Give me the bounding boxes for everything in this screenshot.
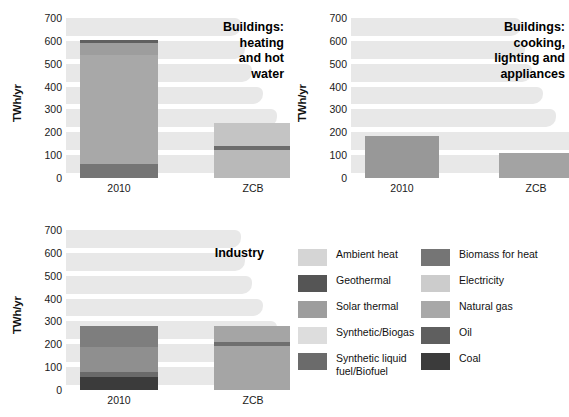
panel-title: Buildings: heating and hot water [164, 20, 284, 82]
panel-buildings-heating: TWh/yr 7006005004003002001000 Buildings:… [0, 0, 290, 205]
panel-title: Buildings: cooking, lighting and applian… [430, 20, 565, 82]
bar-segment [214, 342, 290, 347]
legend-swatch [298, 327, 327, 344]
y-tick-label: 700 [329, 13, 347, 24]
y-tick-label: 200 [44, 127, 62, 138]
bar-segment [80, 55, 158, 165]
x-tick-label: 2010 [80, 394, 158, 406]
y-tick-label: 300 [44, 104, 62, 115]
y-tick-label: 100 [329, 150, 347, 161]
y-tick-label: 200 [44, 339, 62, 350]
y-tick-label: 300 [44, 316, 62, 327]
legend-item[interactable]: Coal [421, 352, 569, 370]
x-axis-ticks: 2010ZCB [351, 182, 569, 198]
x-tick-label: 2010 [365, 182, 439, 194]
legend-item[interactable]: Electricity [421, 274, 569, 292]
y-tick-label: 700 [44, 13, 62, 24]
y-axis-label: TWh/yr [296, 70, 308, 122]
bar-segment [499, 153, 569, 178]
legend-swatch [298, 249, 327, 266]
y-tick-label: 200 [329, 127, 347, 138]
y-tick-label: 100 [44, 150, 62, 161]
legend-swatch [298, 353, 327, 370]
legend-item[interactable]: Natural gas [421, 300, 569, 318]
bar-segment [214, 326, 290, 341]
legend-item[interactable]: Synthetic liquid fuel/Biofuel [298, 352, 433, 378]
bar-segment [80, 372, 158, 377]
legend-swatch [421, 275, 450, 292]
y-tick-label: 0 [56, 385, 62, 396]
bar-segment [80, 377, 158, 390]
legend-label: Electricity [459, 274, 504, 287]
legend-label: Oil [459, 326, 472, 339]
y-tick-label: 400 [44, 82, 62, 93]
legend: Ambient heatGeothermalSolar thermalSynth… [298, 248, 568, 398]
x-axis-ticks: 2010ZCB [66, 394, 290, 410]
legend-label: Biomass for heat [459, 248, 538, 261]
legend-item[interactable]: Geothermal [298, 274, 433, 292]
legend-swatch [421, 301, 450, 318]
legend-label: Ambient heat [336, 248, 398, 261]
y-tick-label: 600 [44, 36, 62, 47]
y-axis-ticks: 7006005004003002001000 [28, 212, 62, 412]
bar-segment [214, 146, 290, 149]
bar-segment [80, 164, 158, 178]
bar-segment [214, 346, 290, 390]
x-tick-label: ZCB [214, 182, 292, 194]
y-tick-label: 500 [44, 59, 62, 70]
figure-root: TWh/yr 7006005004003002001000 Buildings:… [0, 0, 569, 417]
bar-segment [80, 43, 158, 55]
bar-segment [214, 150, 290, 178]
bar-segment [214, 123, 290, 146]
legend-swatch [298, 301, 327, 318]
bar-segment [365, 136, 439, 178]
y-tick-label: 300 [329, 104, 347, 115]
legend-label: Solar thermal [336, 300, 398, 313]
bar-segment [80, 347, 158, 373]
bar-segment [80, 40, 158, 43]
y-tick-label: 500 [329, 59, 347, 70]
legend-item[interactable]: Ambient heat [298, 248, 433, 266]
panel-buildings-cooking: TWh/yr 7006005004003002001000 Buildings:… [285, 0, 569, 205]
legend-swatch [298, 275, 327, 292]
y-tick-label: 700 [44, 225, 62, 236]
y-axis-label: TWh/yr [11, 70, 23, 122]
y-axis-label: TWh/yr [11, 282, 23, 334]
legend-swatch [421, 353, 450, 370]
legend-swatch [421, 249, 450, 266]
x-tick-label: ZCB [214, 394, 292, 406]
panel-title: Industry [124, 246, 264, 262]
y-tick-label: 0 [56, 173, 62, 184]
y-tick-label: 0 [341, 173, 347, 184]
legend-label: Natural gas [459, 300, 513, 313]
legend-item[interactable]: Oil [421, 326, 569, 344]
y-tick-label: 600 [44, 248, 62, 259]
y-tick-label: 600 [329, 36, 347, 47]
legend-item[interactable]: Solar thermal [298, 300, 433, 318]
legend-label: Synthetic liquid fuel/Biofuel [336, 352, 407, 378]
x-axis-ticks: 2010ZCB [66, 182, 290, 198]
x-tick-label: 2010 [80, 182, 158, 194]
y-axis-ticks: 7006005004003002001000 [28, 0, 62, 200]
y-tick-label: 500 [44, 271, 62, 282]
legend-item[interactable]: Biomass for heat [421, 248, 569, 266]
y-tick-label: 400 [44, 294, 62, 305]
y-tick-label: 400 [329, 82, 347, 93]
bar-2010 [80, 18, 158, 178]
panel-industry: TWh/yr 7006005004003002001000 Industry 2… [0, 212, 290, 417]
bar-segment [80, 326, 158, 347]
legend-label: Geothermal [336, 274, 391, 287]
legend-item[interactable]: Synthetic/Biogas [298, 326, 433, 344]
x-tick-label: ZCB [499, 182, 569, 194]
bar-2010 [365, 18, 439, 178]
legend-swatch [421, 327, 450, 344]
y-tick-label: 100 [44, 362, 62, 373]
y-axis-ticks: 7006005004003002001000 [313, 0, 347, 200]
legend-label: Coal [459, 352, 481, 365]
legend-label: Synthetic/Biogas [336, 326, 414, 339]
